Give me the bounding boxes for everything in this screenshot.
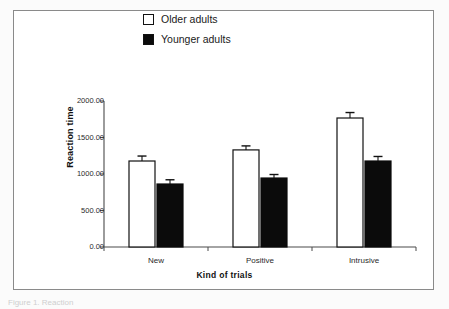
x-axis-category-label: New	[148, 256, 164, 265]
figure-caption-partial: Figure 1. Reaction	[8, 298, 188, 307]
x-axis-title: Kind of trials	[0, 270, 449, 280]
y-axis-title: Reaction time	[65, 97, 75, 177]
x-axis-category-label: Positive	[246, 256, 274, 265]
x-axis-category-label: Intrusive	[349, 256, 379, 265]
figure-root: Older adults Younger adults 0.00500.0010…	[0, 0, 449, 309]
